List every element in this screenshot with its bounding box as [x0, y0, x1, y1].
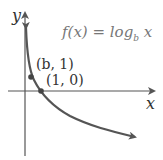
function-label: f(x) = logb x — [62, 25, 152, 43]
point-label-b-1: (b, 1) — [36, 57, 74, 71]
point-label-1-0: (1, 0) — [46, 73, 84, 87]
log-graph-diagram: y x f(x) = logb x (b, 1) (1, 0) — [0, 0, 163, 160]
point-1-0 — [38, 88, 44, 94]
y-axis-label: y — [12, 8, 21, 24]
point-b-1 — [28, 74, 34, 80]
function-prefix: f(x) = log — [62, 23, 133, 41]
function-suffix: x — [139, 23, 152, 41]
x-axis-label: x — [146, 96, 155, 112]
